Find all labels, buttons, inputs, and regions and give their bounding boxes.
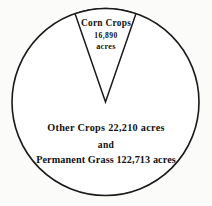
- slice-label-corn-crops-value: 16,890: [94, 31, 117, 40]
- slice-label-corn-crops-unit: acres: [96, 42, 116, 51]
- pie-chart-canvas: Corn Crops 16,890 acres Other Crops 22,2…: [0, 0, 212, 206]
- pie-chart-figure: Corn Crops 16,890 acres Other Crops 22,2…: [0, 0, 212, 206]
- slice-label-conjunction: and: [98, 139, 115, 150]
- slice-label-other-crops: Other Crops 22,210 acres: [47, 122, 165, 133]
- slice-label-permanent-grass: Permanent Grass 122,713 acres: [36, 154, 176, 165]
- slice-label-corn-crops-title: Corn Crops: [81, 18, 131, 28]
